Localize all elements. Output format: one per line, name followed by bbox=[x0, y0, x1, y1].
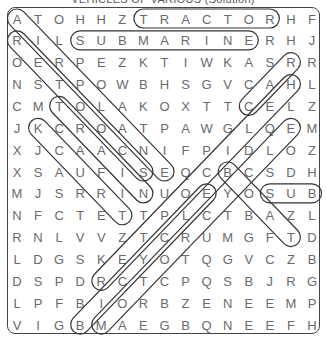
word-outline-motorcycle bbox=[88, 114, 304, 338]
word-outline-airplane bbox=[4, 5, 178, 185]
word-outline-truck bbox=[25, 114, 136, 228]
word-outline-train bbox=[46, 93, 157, 207]
word-outline-sub bbox=[260, 184, 321, 203]
solution-outlines bbox=[0, 0, 326, 338]
word-outline-submarine bbox=[71, 31, 259, 50]
word-outline-scooter bbox=[4, 27, 157, 185]
word-outline-car bbox=[235, 49, 304, 120]
word-outline-tractor bbox=[134, 9, 279, 28]
word-outline-bicycle bbox=[67, 180, 220, 338]
word-outline-boat bbox=[214, 158, 304, 250]
